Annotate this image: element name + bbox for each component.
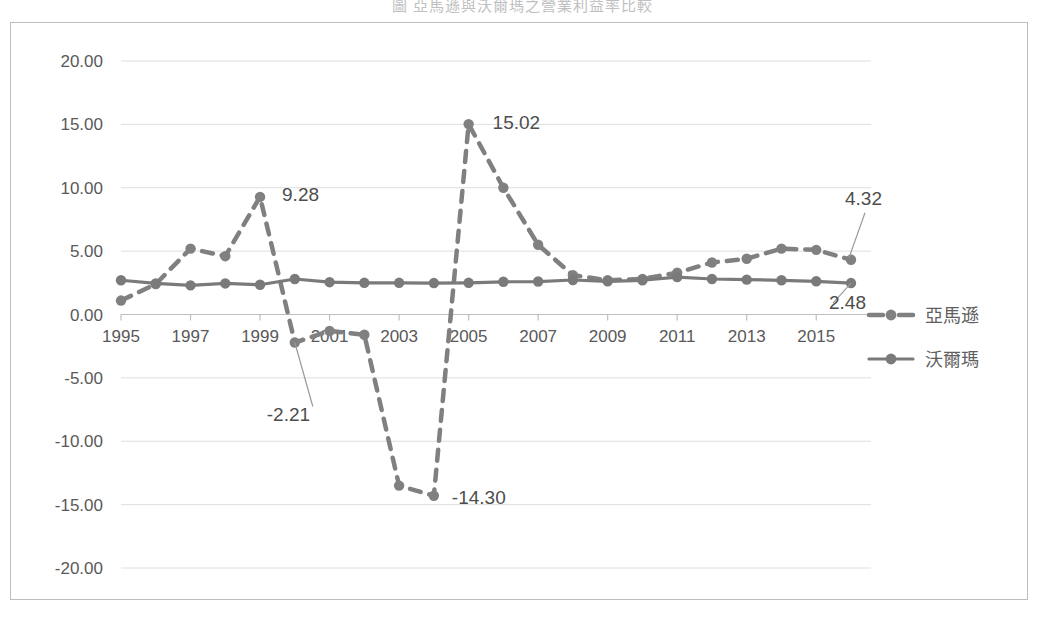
data-point bbox=[324, 277, 334, 287]
legend-marker-dot bbox=[886, 310, 897, 321]
data-point bbox=[568, 275, 578, 285]
data-point bbox=[533, 276, 543, 286]
data-point bbox=[290, 337, 300, 347]
x-axis-tick-label: 2011 bbox=[659, 327, 696, 346]
x-axis-tick-label: 2007 bbox=[519, 327, 557, 346]
x-axis-tick-label: 2009 bbox=[589, 327, 627, 346]
data-point bbox=[290, 274, 300, 284]
data-point bbox=[672, 272, 682, 282]
data-point bbox=[220, 251, 230, 261]
chart-title: 圖 亞馬遜與沃爾瑪之營業利益率比較 bbox=[0, 0, 1045, 15]
data-point bbox=[707, 274, 717, 284]
y-axis-tick-label: 0.00 bbox=[70, 306, 103, 325]
data-point bbox=[324, 326, 334, 336]
data-label: 9.28 bbox=[282, 184, 319, 205]
data-label: -14.30 bbox=[452, 487, 506, 508]
data-point bbox=[811, 276, 821, 286]
series-line-0 bbox=[121, 124, 851, 496]
data-point bbox=[463, 119, 473, 129]
data-point bbox=[637, 275, 647, 285]
data-point bbox=[429, 491, 439, 501]
data-point bbox=[776, 275, 786, 285]
data-point bbox=[394, 480, 404, 490]
data-point bbox=[394, 278, 404, 288]
x-axis-tick-label: 1997 bbox=[172, 327, 210, 346]
x-axis-tick-label: 1995 bbox=[102, 327, 140, 346]
data-point bbox=[533, 240, 543, 250]
data-point bbox=[498, 277, 508, 287]
y-axis-tick-label: -10.00 bbox=[55, 432, 103, 451]
legend-item-label: 亞馬遜 bbox=[925, 305, 979, 326]
data-point bbox=[707, 257, 717, 267]
x-axis-tick-label: 2005 bbox=[450, 327, 488, 346]
y-axis-tick-label: -5.00 bbox=[64, 369, 103, 388]
data-point bbox=[359, 278, 369, 288]
data-point bbox=[463, 278, 473, 288]
y-axis-tick-label: 10.00 bbox=[60, 179, 103, 198]
data-point bbox=[116, 295, 126, 305]
data-point bbox=[742, 254, 752, 264]
chart-frame: 20.0015.0010.005.000.00-5.00-10.00-15.00… bbox=[10, 22, 1028, 600]
annotation-leader-line bbox=[295, 343, 313, 407]
data-point bbox=[151, 278, 161, 288]
legend-marker-dot bbox=[886, 354, 897, 365]
data-point bbox=[429, 278, 439, 288]
data-label: 4.32 bbox=[845, 188, 882, 209]
data-point bbox=[185, 280, 195, 290]
data-point bbox=[811, 245, 821, 255]
y-axis-tick-label: 20.00 bbox=[60, 52, 103, 71]
data-point bbox=[255, 192, 265, 202]
data-point bbox=[255, 280, 265, 290]
data-point bbox=[776, 243, 786, 253]
data-point bbox=[498, 183, 508, 193]
legend-item-label: 沃爾瑪 bbox=[925, 349, 979, 370]
x-axis-tick-label: 1999 bbox=[241, 327, 279, 346]
y-axis-tick-label: -15.00 bbox=[55, 496, 103, 515]
x-axis-tick-label: 2003 bbox=[380, 327, 418, 346]
series-line-1 bbox=[121, 277, 851, 285]
chart-plot: 20.0015.0010.005.000.00-5.00-10.00-15.00… bbox=[11, 23, 1026, 598]
x-axis-tick-label: 2013 bbox=[728, 327, 766, 346]
data-point bbox=[742, 274, 752, 284]
data-point bbox=[220, 278, 230, 288]
data-point bbox=[359, 330, 369, 340]
y-axis-tick-label: -20.00 bbox=[55, 559, 103, 578]
data-label: 15.02 bbox=[493, 112, 541, 133]
data-label: -2.21 bbox=[267, 404, 310, 425]
data-label: 2.48 bbox=[829, 292, 866, 313]
data-point bbox=[602, 276, 612, 286]
data-point bbox=[846, 255, 856, 265]
y-axis-tick-label: 15.00 bbox=[60, 115, 103, 134]
data-point bbox=[116, 275, 126, 285]
data-point bbox=[185, 243, 195, 253]
x-axis-tick-label: 2015 bbox=[797, 327, 835, 346]
y-axis-tick-label: 5.00 bbox=[70, 242, 103, 261]
